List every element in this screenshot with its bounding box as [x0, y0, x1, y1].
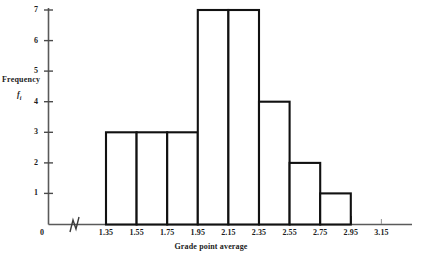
- bar-2-35-2-55: [259, 102, 290, 225]
- x-tick-label-2-75: 2.75: [313, 229, 327, 237]
- y-tick-label-6: 6: [26, 37, 38, 45]
- x-tick-label-2-15: 2.15: [221, 229, 235, 237]
- x-tick-label-2-55: 2.55: [282, 229, 296, 237]
- y-tick-label-7: 7: [26, 6, 38, 14]
- x-tick-label-3-15: 3.15: [374, 229, 388, 237]
- x-tick-label-2-95: 2.95: [344, 229, 358, 237]
- y-axis-symbol-subscript: i: [20, 95, 22, 101]
- y-tick-label-3: 3: [26, 128, 38, 136]
- x-tick-label-1-35: 1.35: [99, 229, 113, 237]
- x-axis-title: Grade point average: [174, 243, 247, 251]
- bar-1-75-1-95: [167, 132, 198, 224]
- bar-2-75-2-95: [320, 193, 351, 224]
- x-tick-label-2-35: 2.35: [252, 229, 266, 237]
- y-tick-label-2: 2: [26, 159, 38, 167]
- bar-1-95-2-15: [198, 10, 229, 225]
- axis-break-icon: [70, 217, 79, 232]
- bar-1-35-1-55: [106, 132, 137, 224]
- y-axis-symbol: fi: [17, 91, 21, 101]
- y-tick-label-4: 4: [26, 98, 38, 106]
- histogram-bars: [106, 10, 351, 225]
- bar-2-15-2-35: [228, 10, 259, 225]
- histogram-plot: [0, 0, 422, 260]
- y-axis-title: Frequency: [2, 76, 40, 84]
- bar-2-55-2-75: [290, 163, 321, 225]
- x-tick-label-1-95: 1.95: [191, 229, 205, 237]
- y-tick-label-1: 1: [26, 189, 38, 197]
- y-tick-label-5: 5: [26, 67, 38, 75]
- x-tick-label-1-55: 1.55: [129, 229, 143, 237]
- origin-label: 0: [40, 229, 44, 237]
- bar-1-55-1-75: [137, 132, 168, 224]
- x-tick-label-1-75: 1.75: [160, 229, 174, 237]
- histogram-figure: 7 6 5 4 3 2 1 0 1.35 1.55 1.75 1.95 2.15…: [0, 0, 422, 260]
